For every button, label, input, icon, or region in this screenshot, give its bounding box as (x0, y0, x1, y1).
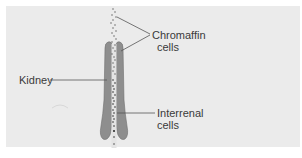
kidney-channel (112, 44, 117, 148)
chromaffin-cells-label: Chromaffin cells (152, 29, 206, 53)
interrenal-cells-label: Interrenal cells (157, 107, 203, 131)
chromaffin-label-line1: Chromaffin (152, 29, 206, 41)
chromaffin-leader-lower (121, 35, 150, 51)
kidney-label-line1: Kidney (19, 74, 53, 86)
background-sketch (52, 105, 68, 108)
kidney-label: Kidney (19, 74, 53, 86)
chromaffin-label-line2: cells (152, 41, 206, 53)
interrenal-label-line2: cells (157, 119, 203, 131)
kidney-left-lobe (100, 42, 112, 140)
interrenal-label-line1: Interrenal (157, 107, 203, 119)
chromaffin-leader-upper (117, 17, 150, 34)
kidney-right-lobe (116, 42, 128, 140)
